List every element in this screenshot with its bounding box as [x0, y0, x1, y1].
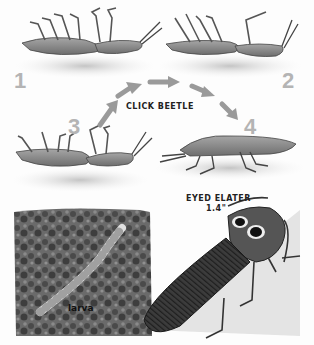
illustration-canvas [0, 0, 314, 345]
beetle-step-4 [155, 136, 305, 180]
specimen-name: EYED ELATER [186, 194, 251, 203]
step-number-1: 1 [14, 70, 26, 92]
click-beetle-plate: 1 2 3 4 CLICK BEETLE EYED ELATER 1.4" la… [0, 0, 314, 345]
soil-panel [14, 208, 152, 336]
beetle-step-2 [158, 12, 302, 78]
sequence-arrows [100, 76, 238, 125]
step-number-4: 4 [244, 116, 256, 138]
specimen-size: 1.4" [206, 204, 226, 213]
plate-title: CLICK BEETLE [126, 102, 194, 111]
step-number-2: 2 [282, 70, 294, 92]
step-number-3: 3 [68, 116, 80, 138]
larva-label: larva [68, 303, 94, 313]
beetle-step-3 [12, 126, 152, 192]
beetle-step-1 [15, 8, 162, 78]
